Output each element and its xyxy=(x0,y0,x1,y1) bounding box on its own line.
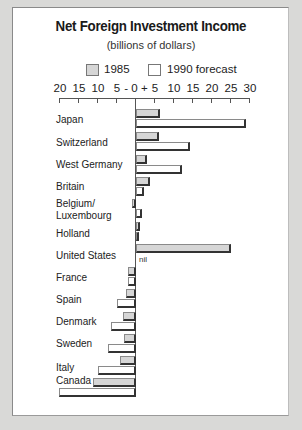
x-tick xyxy=(192,98,193,103)
x-tick xyxy=(173,98,174,103)
category-label: Switzerland xyxy=(56,137,108,149)
x-tick xyxy=(97,98,98,103)
x-tick-label: 25 xyxy=(225,82,238,94)
x-tick-label: 10 xyxy=(168,82,181,94)
bar-1985 xyxy=(128,267,136,276)
category-label: Sweden xyxy=(56,338,92,350)
x-tick-label: 5 xyxy=(152,82,158,94)
x-tick xyxy=(211,98,212,103)
bar-1990 xyxy=(136,119,246,128)
category-label: Denmark xyxy=(56,316,97,328)
category-label: Canada xyxy=(56,375,91,387)
bar-1985 xyxy=(120,356,136,365)
bar-1990 xyxy=(59,388,136,397)
x-tick-label: 30 xyxy=(244,82,257,94)
x-tick-label: 20 xyxy=(206,82,219,94)
x-tick-label: 15 xyxy=(187,82,200,94)
x-tick xyxy=(230,98,231,103)
legend-swatch-1985 xyxy=(86,64,99,76)
chart-title: Net Foreign Investment Income xyxy=(12,18,290,34)
x-tick-label: 15 xyxy=(73,82,86,94)
bar-1990 xyxy=(136,232,139,241)
x-tick-label: - 0 + xyxy=(124,82,147,94)
category-label: Italy xyxy=(56,362,74,374)
legend-label-1990: 1990 forecast xyxy=(167,63,237,75)
x-tick-label: 5 xyxy=(114,82,120,94)
x-tick-label: 10 xyxy=(92,82,105,94)
legend-label-1985: 1985 xyxy=(104,63,130,75)
bar-1990 xyxy=(98,366,136,375)
bar-1985 xyxy=(93,378,136,387)
bar-1990 xyxy=(136,209,142,218)
bar-1985 xyxy=(136,244,231,253)
bar-1985 xyxy=(136,109,160,118)
x-tick xyxy=(116,98,117,103)
x-tick xyxy=(78,98,79,103)
bar-1985 xyxy=(132,199,136,208)
bar-1990 xyxy=(136,165,182,174)
bar-1990 xyxy=(108,344,137,353)
bar-1990 xyxy=(136,187,144,196)
category-label: Japan xyxy=(56,114,83,126)
x-tick xyxy=(154,98,155,103)
x-tick xyxy=(249,98,250,103)
nil-annotation: nil xyxy=(139,255,147,264)
category-label: United States xyxy=(56,250,116,262)
chart-subtitle: (billions of dollars) xyxy=(0,39,302,51)
category-label: West Germany xyxy=(56,159,123,171)
bar-1990 xyxy=(111,322,136,331)
bar-1990 xyxy=(128,277,136,286)
bar-1985 xyxy=(126,289,136,298)
bar-1985 xyxy=(136,155,147,164)
bar-1985 xyxy=(123,312,136,321)
bar-1985 xyxy=(124,334,136,343)
category-label: Belgium/ Luxembourg xyxy=(56,198,112,222)
category-label: Spain xyxy=(56,294,82,306)
bar-1985 xyxy=(136,222,140,231)
bar-1985 xyxy=(136,177,150,186)
legend-swatch-1990 xyxy=(148,64,161,76)
bar-1990 xyxy=(136,142,190,151)
bar-1985 xyxy=(136,132,159,141)
x-tick xyxy=(59,98,60,103)
category-label: France xyxy=(56,272,87,284)
bar-1990 xyxy=(117,299,136,308)
category-label: Holland xyxy=(56,228,90,240)
category-label: Britain xyxy=(56,181,84,193)
x-tick-label: 20 xyxy=(54,82,67,94)
x-axis-line xyxy=(60,98,250,99)
